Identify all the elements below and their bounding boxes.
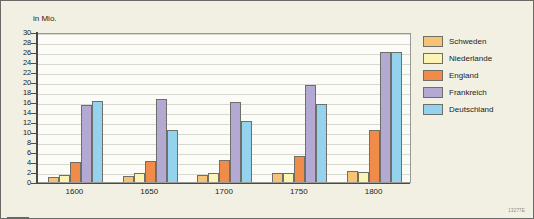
y-tick-mark	[31, 163, 37, 164]
y-tick-label: 28	[3, 39, 31, 47]
bar	[167, 130, 178, 183]
bar	[208, 173, 219, 183]
y-tick-mark	[31, 133, 37, 134]
bar	[230, 102, 241, 182]
y-tick-label: 22	[3, 69, 31, 77]
y-tick-mark	[31, 183, 37, 184]
y-tick-mark	[31, 73, 37, 74]
bar-group	[113, 34, 188, 182]
bar	[305, 85, 316, 183]
y-tick-mark	[31, 103, 37, 104]
y-tick-mark	[31, 63, 37, 64]
legend-swatch	[423, 70, 443, 81]
bar	[347, 171, 358, 183]
y-tick-label: 16	[3, 99, 31, 107]
bar	[283, 173, 294, 183]
bar	[369, 130, 380, 182]
legend-item[interactable]: Frankreich	[423, 84, 529, 101]
y-tick-label: 10	[3, 129, 31, 137]
bar	[123, 176, 134, 182]
y-axis-title: in Mio.	[33, 15, 57, 23]
legend-swatch	[423, 36, 443, 47]
legend-label: Schweden	[449, 37, 486, 46]
legend-swatch	[423, 104, 443, 115]
y-tick-label: 4	[3, 159, 31, 167]
y-tick-label: 20	[3, 79, 31, 87]
gridline	[38, 183, 410, 184]
y-tick-mark	[31, 93, 37, 94]
bar-group	[337, 34, 412, 182]
legend-item[interactable]: Schweden	[423, 33, 529, 50]
bar	[134, 173, 145, 183]
y-tick-label: 14	[3, 109, 31, 117]
bar	[70, 162, 81, 182]
y-tick-mark	[31, 113, 37, 114]
legend-item[interactable]: Niederlande	[423, 50, 529, 67]
x-axis-label: 1750	[269, 188, 329, 196]
y-tick-mark	[31, 53, 37, 54]
y-tick-label: 30	[3, 29, 31, 37]
x-axis-label: 1800	[344, 188, 404, 196]
y-tick-label: 2	[3, 169, 31, 177]
bar	[92, 101, 103, 183]
x-axis-label: 1650	[119, 188, 179, 196]
legend-item[interactable]: England	[423, 67, 529, 84]
y-tick-label: 26	[3, 49, 31, 57]
bar	[272, 173, 283, 182]
bar	[219, 160, 230, 182]
x-axis-label: 1600	[44, 188, 104, 196]
y-tick-mark	[31, 123, 37, 124]
x-axis-label: 1700	[194, 188, 254, 196]
bar	[145, 161, 156, 183]
bar	[81, 105, 92, 183]
y-tick-label: 0	[3, 179, 31, 187]
legend-label: Deutschland	[449, 105, 493, 114]
bar-group	[188, 34, 263, 182]
y-tick-label: 6	[3, 149, 31, 157]
bar-group	[38, 34, 113, 182]
y-axis-ticks: 302826242220181614121086420	[1, 1, 31, 219]
bar	[358, 172, 369, 183]
y-tick-label: 8	[3, 139, 31, 147]
bar	[59, 175, 70, 183]
y-tick-mark	[31, 143, 37, 144]
bar	[380, 52, 391, 182]
y-tick-mark	[31, 33, 37, 34]
bar	[316, 104, 327, 182]
source-code: 13277E	[508, 208, 525, 213]
y-tick-mark	[31, 153, 37, 154]
bar	[241, 121, 252, 182]
legend-item[interactable]: Deutschland	[423, 101, 529, 118]
bar-group	[262, 34, 337, 182]
y-tick-mark	[31, 43, 37, 44]
legend-label: England	[449, 71, 478, 80]
bar	[197, 175, 208, 182]
y-tick-label: 24	[3, 59, 31, 67]
y-tick-label: 12	[3, 119, 31, 127]
y-tick-label: 18	[3, 89, 31, 97]
plot-area	[37, 33, 411, 183]
y-tick-mark	[31, 173, 37, 174]
bar	[48, 177, 59, 182]
legend-label: Frankreich	[449, 88, 487, 97]
y-axis-line	[36, 32, 38, 184]
bar	[156, 99, 167, 182]
chart-figure: in Mio. 302826242220181614121086420 1600…	[0, 0, 534, 219]
bar	[391, 52, 402, 182]
chart-legend: SchwedenNiederlandeEnglandFrankreichDeut…	[423, 33, 529, 118]
bar	[294, 156, 305, 183]
legend-swatch	[423, 53, 443, 64]
y-tick-mark	[31, 83, 37, 84]
scan-marker	[7, 217, 29, 219]
legend-swatch	[423, 87, 443, 98]
legend-label: Niederlande	[449, 54, 492, 63]
